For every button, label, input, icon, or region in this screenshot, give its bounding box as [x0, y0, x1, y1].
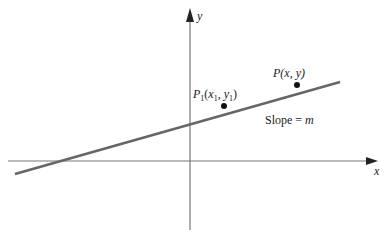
y-axis-arrow-icon	[186, 8, 194, 22]
x-axis-label: x	[374, 165, 379, 177]
slope-label-prefix: Slope =	[265, 113, 305, 127]
slope-label: Slope = m	[265, 114, 314, 126]
y-axis-label: y	[197, 10, 202, 22]
point-p	[294, 82, 300, 88]
p1-close-paren: )	[233, 87, 237, 101]
point-p-coords: (x, y)	[280, 66, 305, 80]
sloped-line	[15, 82, 340, 174]
y-axis	[186, 8, 194, 230]
point-p1-label: P1(x1, y1)	[193, 88, 237, 103]
slope-symbol: m	[305, 113, 314, 127]
point-p-label: P(x, y)	[273, 67, 305, 79]
coordinate-plane	[0, 0, 388, 235]
point-p1	[221, 103, 227, 109]
